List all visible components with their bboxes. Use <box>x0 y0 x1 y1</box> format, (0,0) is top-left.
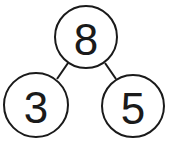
whole-label: 8 <box>74 15 98 64</box>
left-part-label: 3 <box>24 83 48 132</box>
whole-node: 8 <box>55 6 117 68</box>
edge-whole-to-left-part <box>57 63 68 79</box>
edge-whole-to-right-part <box>105 63 116 79</box>
right-part-node: 5 <box>102 75 164 137</box>
number-bond-diagram: 8 3 5 <box>0 0 169 151</box>
left-part-node: 3 <box>4 73 68 137</box>
right-part-label: 5 <box>121 84 145 133</box>
